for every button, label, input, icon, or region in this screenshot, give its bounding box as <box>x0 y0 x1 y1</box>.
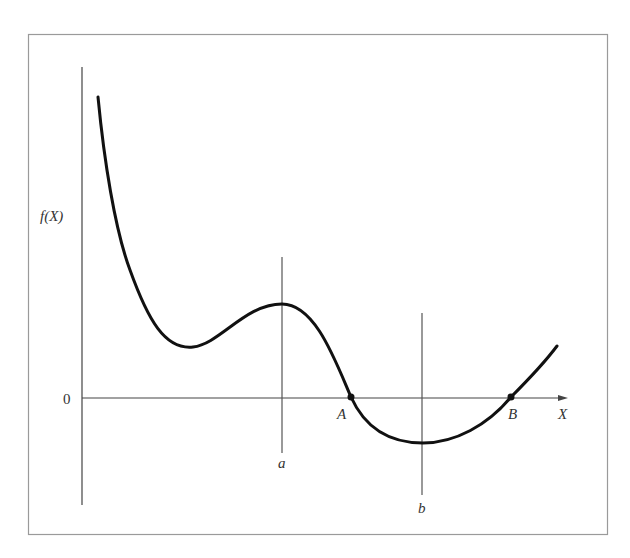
root-label-b: B <box>508 406 517 422</box>
guide-label-a: a <box>278 455 286 471</box>
figure-frame <box>29 35 608 535</box>
function-plot: f(X) 0 X A B a b <box>0 0 630 558</box>
guide-label-b: b <box>418 500 426 516</box>
y-axis-label: f(X) <box>40 208 63 225</box>
root-point-a <box>348 394 355 401</box>
root-label-a: A <box>336 406 347 422</box>
function-curve <box>98 97 557 443</box>
root-point-b <box>508 394 515 401</box>
x-axis-arrow-icon <box>558 395 568 401</box>
x-axis-label: X <box>557 406 568 422</box>
zero-tick-label: 0 <box>63 391 71 407</box>
